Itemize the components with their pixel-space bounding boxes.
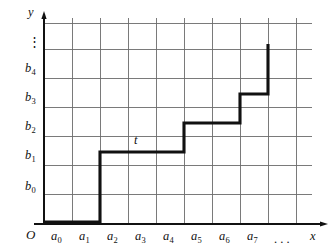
x-axis-arrow-icon <box>320 221 328 226</box>
x-tick-label-a6: a6 <box>219 230 230 244</box>
x-tick-label-a2: a2 <box>107 230 118 244</box>
x-tick-label-a3: a3 <box>135 230 146 244</box>
x-tick-label-a4: a4 <box>163 230 174 244</box>
x-tick-sub: 6 <box>225 235 229 245</box>
step-function-figure: y ⋮ b4 b3 b2 b1 b0 O a0 a1 a2 a3 a4 a5 a… <box>0 0 334 251</box>
x-tick-label-a1: a1 <box>79 230 90 244</box>
y-axis <box>41 11 46 224</box>
x-tick-label-a0: a0 <box>51 230 62 244</box>
y-tick-label-b1: b1 <box>25 149 36 163</box>
x-tick-sub: 0 <box>57 235 61 245</box>
y-axis-name: y <box>28 6 34 19</box>
grid-horizontal-lines <box>44 23 312 194</box>
origin-label: O <box>26 228 35 241</box>
x-tick-label-a7: a7 <box>247 230 258 244</box>
y-tick-label-b4: b4 <box>25 62 36 76</box>
x-tick-sub: 1 <box>85 235 89 245</box>
y-tick-label-b0: b0 <box>25 180 36 194</box>
x-axis-name: x <box>310 230 316 243</box>
y-tick-sub: 2 <box>31 125 35 135</box>
x-tick-sub: 2 <box>113 235 117 245</box>
x-tick-sub: 5 <box>197 235 201 245</box>
y-tick-label-b2: b2 <box>25 120 36 134</box>
y-axis-ellipsis: ⋮ <box>28 35 41 48</box>
x-axis-ellipsis: . . . <box>274 233 290 246</box>
y-tick-sub: 1 <box>31 154 35 164</box>
x-tick-sub: 4 <box>169 235 173 245</box>
y-axis-arrow-icon <box>41 11 46 19</box>
x-tick-sub: 7 <box>253 235 257 245</box>
x-tick-label-a5: a5 <box>191 230 202 244</box>
x-tick-sub: 3 <box>141 235 145 245</box>
y-tick-label-b3: b3 <box>25 91 36 105</box>
y-tick-sub: 3 <box>31 96 35 106</box>
y-tick-sub: 0 <box>31 185 35 195</box>
plot-canvas <box>0 0 334 251</box>
y-tick-sub: 4 <box>31 67 35 77</box>
curve-label-t: t <box>134 134 137 147</box>
